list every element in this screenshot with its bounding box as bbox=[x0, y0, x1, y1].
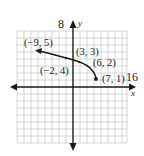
curve-left-arrow-icon bbox=[35, 48, 42, 54]
x-axis-label: x bbox=[130, 88, 135, 98]
curve-point-dot bbox=[78, 61, 80, 63]
y-axis-label: y bbox=[77, 18, 82, 28]
x-axis-left-arrow-icon bbox=[10, 84, 17, 91]
point-label-5: (7, 1) bbox=[102, 73, 125, 85]
x-max-label: 16 bbox=[126, 70, 138, 84]
y-axis-down-arrow-icon bbox=[70, 143, 77, 151]
point-label-2: (−2, 4) bbox=[40, 65, 69, 77]
point-label-1: (−9, 5) bbox=[24, 37, 53, 49]
labels: 8 y 16 x (−9, 5) (−2, 4) (3, 3) (6, 2) (… bbox=[24, 17, 138, 98]
curve-endpoint-dot bbox=[94, 77, 98, 81]
y-axis-up-arrow-icon bbox=[70, 20, 77, 28]
point-label-4: (6, 2) bbox=[93, 57, 116, 69]
y-max-label: 8 bbox=[58, 17, 64, 31]
coordinate-graph: 8 y 16 x (−9, 5) (−2, 4) (3, 3) (6, 2) (… bbox=[0, 0, 144, 156]
curve-point-dot bbox=[65, 57, 67, 59]
